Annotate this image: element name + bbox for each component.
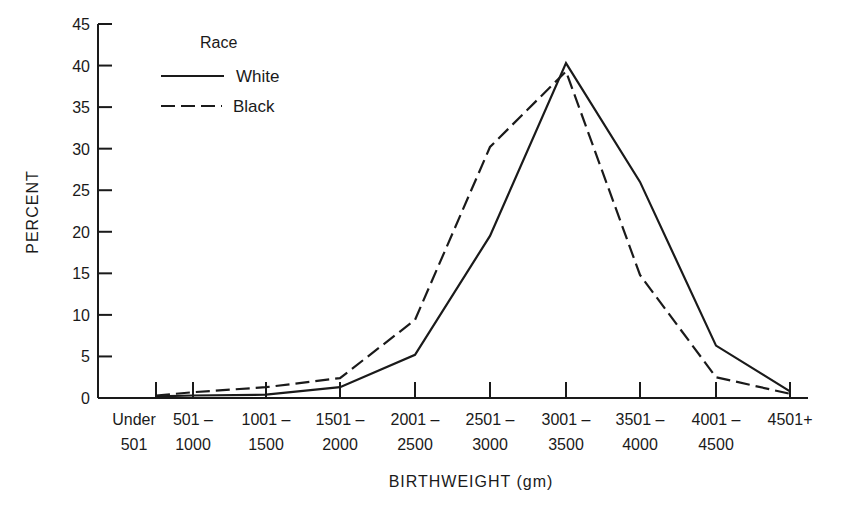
x-tick-label: 3001 – (542, 411, 591, 428)
y-tick-label: 40 (72, 58, 90, 75)
line-chart: 051015202530354045 Under501501 –10001001… (0, 0, 865, 510)
x-tick-label-line2: 1000 (175, 436, 211, 453)
x-tick-label: 501 – (173, 411, 213, 428)
legend-label-black: Black (233, 97, 275, 116)
y-tick-label: 35 (72, 99, 90, 116)
x-tick-label: 2001 – (391, 411, 440, 428)
y-tick-label: 45 (72, 16, 90, 33)
y-tick-label: 30 (72, 141, 90, 158)
y-tick-label: 5 (81, 348, 90, 365)
x-tick-label: 4001 – (692, 411, 741, 428)
y-tick-label: 0 (81, 390, 90, 407)
x-tick-label-line2: 501 (121, 436, 148, 453)
y-tick-label: 25 (72, 182, 90, 199)
x-axis-label: BIRTHWEIGHT (gm) (389, 473, 554, 490)
x-tick-label-line2: 3000 (472, 436, 508, 453)
x-tick-label-line2: 2500 (397, 436, 433, 453)
legend: Race White Black (161, 34, 279, 116)
x-tick-label: 2501 – (466, 411, 515, 428)
legend-label-white: White (236, 67, 279, 86)
series-line-black (156, 71, 790, 395)
x-tick-label-line2: 3500 (548, 436, 584, 453)
x-tick-label-line2: 1500 (248, 436, 284, 453)
x-tick-label: 1001 – (242, 411, 291, 428)
x-tick-label: 4501+ (768, 411, 813, 428)
x-tick-label-line2: 2000 (322, 436, 358, 453)
legend-title: Race (200, 34, 237, 51)
x-axis: Under501501 –10001001 –15001501 –2000200… (98, 382, 812, 453)
y-axis: 051015202530354045 (72, 16, 112, 407)
y-tick-label: 20 (72, 224, 90, 241)
y-tick-label: 15 (72, 265, 90, 282)
y-axis-label: PERCENT (24, 170, 41, 253)
x-tick-label: 1501 – (316, 411, 365, 428)
x-tick-label-line2: 4500 (698, 436, 734, 453)
x-tick-label-line2: 4000 (622, 436, 658, 453)
y-tick-label: 10 (72, 307, 90, 324)
x-tick-label: 3501 – (616, 411, 665, 428)
x-tick-label: Under (112, 411, 156, 428)
